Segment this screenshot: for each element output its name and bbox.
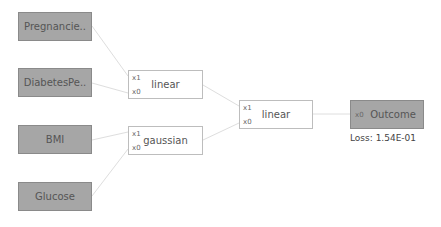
- node-label: BMI: [46, 134, 64, 145]
- loss-label: Loss: 1.54E-01: [350, 133, 416, 143]
- node-label: Glucose: [35, 191, 75, 202]
- op-node-linear-1[interactable]: x1 x0 linear: [128, 70, 203, 99]
- edge-pregnancies-linear1: [92, 26, 128, 76]
- port-x0: x0: [355, 111, 364, 119]
- edge-linear1-linear2: [203, 85, 239, 106]
- node-label: linear: [151, 79, 179, 90]
- port-x0: x0: [132, 144, 141, 152]
- port-x1: x1: [243, 104, 252, 112]
- input-node-pregnancies[interactable]: Pregnancie..: [18, 12, 92, 41]
- node-label: Pregnancie..: [24, 21, 86, 32]
- port-x0: x0: [132, 88, 141, 96]
- edge-gaussian-linear2: [203, 123, 239, 140]
- edge-bmi-gaussian: [92, 132, 128, 140]
- node-label: Outcome: [370, 109, 416, 120]
- input-node-diabetespedigree[interactable]: DiabetesPe..: [18, 68, 92, 97]
- port-x1: x1: [132, 74, 141, 82]
- edge-diabetes-linear1: [92, 83, 128, 93]
- op-node-gaussian[interactable]: x1 x0 gaussian: [128, 126, 203, 155]
- node-label: gaussian: [143, 135, 187, 146]
- edge-glucose-gaussian: [92, 149, 128, 196]
- port-x1: x1: [132, 130, 141, 138]
- input-node-glucose[interactable]: Glucose: [18, 182, 92, 211]
- output-node-outcome[interactable]: x0 Outcome: [350, 100, 424, 129]
- input-node-bmi[interactable]: BMI: [18, 125, 92, 154]
- port-x0: x0: [243, 118, 252, 126]
- node-label: DiabetesPe..: [24, 77, 87, 88]
- node-label: linear: [262, 109, 290, 120]
- op-node-linear-2[interactable]: x1 x0 linear: [239, 100, 313, 129]
